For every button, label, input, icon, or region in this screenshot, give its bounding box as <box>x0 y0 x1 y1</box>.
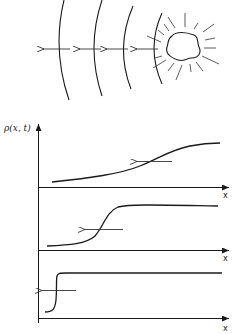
source-blob <box>167 33 200 61</box>
x-axis-label-1: x <box>223 191 228 200</box>
density-curve-1 <box>52 143 220 182</box>
density-plots: ρ(x, t) x x x <box>3 123 229 333</box>
wavefront-panel <box>43 0 219 100</box>
x-axis-label-3: x <box>223 324 228 333</box>
y-axis-label: ρ(x, t) <box>3 123 31 133</box>
wavefront-arc-2 <box>94 0 102 96</box>
density-curve-2 <box>47 205 218 246</box>
wavefront-arc-1 <box>59 0 69 100</box>
wavefront-arc-3 <box>123 6 133 89</box>
x-axis-label-2: x <box>223 254 228 263</box>
wave-steepening-diagram: ρ(x, t) x x x <box>0 0 234 334</box>
wavefront-arc-4 <box>154 13 162 84</box>
density-curve-3 <box>45 273 222 312</box>
